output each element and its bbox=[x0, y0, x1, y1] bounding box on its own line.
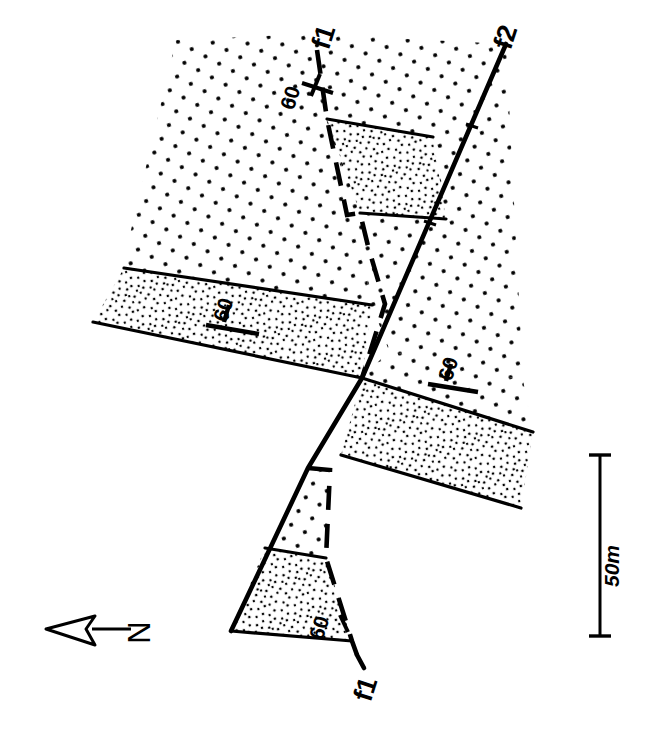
scale-bar-label: 50m bbox=[600, 545, 623, 587]
north-arrow-label: N bbox=[122, 620, 157, 643]
geological-map-svg: 60 60 60 60 f1 f2 f1 50m N bbox=[0, 0, 658, 749]
geological-map-figure: 60 60 60 60 f1 f2 f1 50m N bbox=[0, 0, 658, 749]
